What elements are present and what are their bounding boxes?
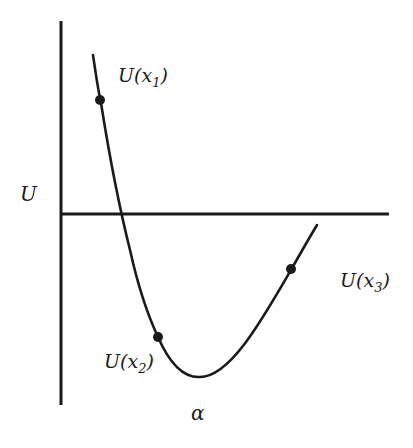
label-u-x1: U(x1)	[118, 64, 168, 90]
point-x1-dot	[95, 95, 105, 105]
x-axis-label: α	[191, 401, 205, 425]
point-x3-dot	[286, 264, 296, 274]
point-x2-dot	[153, 332, 163, 342]
potential-energy-diagram: U α U(x1) U(x2) U(x3)	[0, 0, 413, 448]
y-axis-label: U	[20, 182, 38, 206]
label-u-x3: U(x3)	[340, 269, 390, 295]
energy-curve	[93, 55, 317, 377]
label-u-x2: U(x2)	[104, 350, 154, 376]
